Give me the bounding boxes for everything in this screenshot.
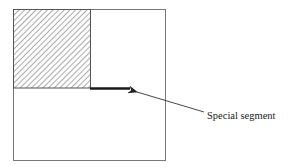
pointer-arrow — [137, 92, 204, 112]
special-segment-label: Special segment — [207, 110, 276, 121]
hatched-region — [14, 10, 91, 89]
diagram-canvas: Special segment — [0, 0, 292, 168]
